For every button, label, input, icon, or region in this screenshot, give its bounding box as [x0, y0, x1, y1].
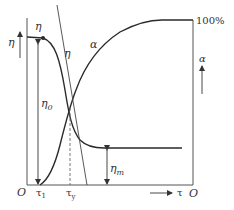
etam-label: ηm: [110, 162, 125, 177]
alpha-curve: [40, 20, 193, 185]
tau-axis-label: τ: [177, 187, 183, 198]
eta-curve-label: η: [64, 47, 71, 60]
eta-curve: [27, 37, 182, 148]
viscosity-structure-diagram: η η η α 100% α η0 ηm O τ1 τy τ O: [0, 0, 234, 210]
eta-start-dot: [41, 36, 45, 40]
eta-axis-label: η: [8, 36, 15, 49]
tauy-label: τy: [66, 187, 76, 201]
tangent-line: [57, 5, 87, 185]
hundred-percent-label: 100%: [196, 15, 225, 26]
alpha-axis-label: α: [199, 53, 206, 64]
alpha-curve-label: α: [90, 38, 98, 51]
eta-top-label: η: [35, 20, 42, 33]
origin-left-label: O: [17, 186, 26, 199]
eta0-label: η0: [41, 97, 53, 112]
origin-right-label: O: [189, 187, 198, 200]
tau1-label: τ1: [36, 187, 46, 200]
